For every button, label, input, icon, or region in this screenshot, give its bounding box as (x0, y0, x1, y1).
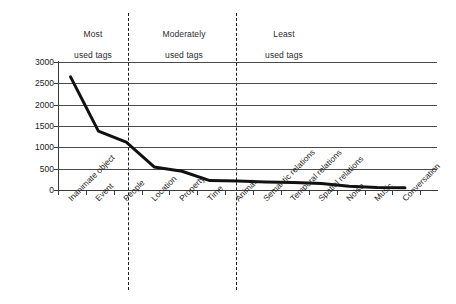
x-tick-mark-5 (197, 190, 198, 195)
y-tick-label-1500: 1500 (20, 121, 54, 131)
section-label-moderately-line2: used tags (165, 50, 203, 60)
x-tick-mark-1 (86, 190, 87, 195)
y-tick-label-2500: 2500 (20, 78, 54, 88)
y-axis-labels: 050010001500200025003000 (0, 62, 54, 190)
tag-usage-line-chart: Most used tags Moderately used tags Leas… (0, 0, 456, 304)
x-tick-mark-13 (420, 190, 421, 195)
data-series-line (58, 62, 437, 190)
x-tick-mark-11 (365, 190, 366, 195)
section-label-least: Least used tags (248, 18, 320, 60)
x-tick-mark-9 (309, 190, 310, 195)
y-tick-label-0: 0 (20, 185, 54, 195)
x-tick-mark-10 (337, 190, 338, 195)
section-label-most: Most used tags (60, 18, 126, 60)
section-label-moderately-line1: Moderately (162, 29, 205, 39)
section-label-least-line2: used tags (265, 50, 303, 60)
section-label-most-line2: used tags (74, 50, 112, 60)
y-tick-label-3000: 3000 (20, 57, 54, 67)
x-tick-mark-3 (142, 190, 143, 195)
section-label-moderately: Moderately used tags (143, 18, 225, 60)
x-tick-mark-2 (114, 190, 115, 195)
x-tick-mark-8 (281, 190, 282, 195)
y-tick-label-500: 500 (20, 164, 54, 174)
x-tick-mark-6 (225, 190, 226, 195)
section-label-least-line1: Least (273, 29, 294, 39)
x-tick-mark-7 (253, 190, 254, 195)
x-tick-mark-4 (169, 190, 170, 195)
plot-area (58, 62, 437, 190)
y-tick-label-1000: 1000 (20, 142, 54, 152)
y-tick-label-2000: 2000 (20, 100, 54, 110)
section-label-most-line1: Most (84, 29, 103, 39)
x-tick-mark-12 (392, 190, 393, 195)
x-tick-mark-0 (58, 190, 59, 195)
